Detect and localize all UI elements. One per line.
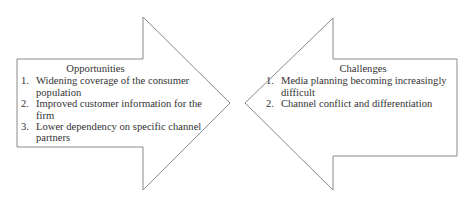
opportunities-challenges-diagram: Opportunities 1.Widening coverage of the… [0, 0, 473, 200]
challenges-title: Challenges [263, 63, 443, 74]
list-number: 3. [21, 121, 29, 132]
list-text: Channel conflict and differentiation [281, 98, 432, 109]
list-text: Lower dependency on specific channel par… [36, 121, 201, 143]
list-item: 2.Improved customer information for the … [18, 98, 208, 121]
opportunities-title: Opportunities [18, 63, 173, 74]
list-number: 1. [21, 75, 29, 86]
challenges-list: 1.Media planning becoming increasingly d… [263, 75, 463, 109]
list-item: 3.Lower dependency on specific channel p… [18, 121, 208, 144]
challenges-panel: Challenges 1.Media planning becoming inc… [263, 63, 463, 110]
list-number: 1. [266, 75, 274, 86]
list-number: 2. [266, 98, 274, 109]
list-text: Widening coverage of the consumer popula… [36, 75, 189, 97]
list-item: 1.Media planning becoming increasingly d… [263, 75, 463, 98]
list-item: 1.Widening coverage of the consumer popu… [18, 75, 208, 98]
list-number: 2. [21, 98, 29, 109]
list-item: 2.Channel conflict and differentiation [263, 98, 463, 109]
list-text: Improved customer information for the fi… [36, 98, 202, 120]
opportunities-list: 1.Widening coverage of the consumer popu… [18, 75, 208, 143]
opportunities-panel: Opportunities 1.Widening coverage of the… [18, 63, 208, 144]
list-text: Media planning becoming increasingly dif… [281, 75, 447, 97]
